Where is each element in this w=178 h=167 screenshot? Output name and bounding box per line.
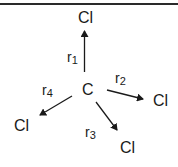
- atom-c-center: C: [82, 82, 94, 98]
- atom-cl-right: Cl: [153, 93, 168, 109]
- vector-r3-arrow: [96, 102, 117, 130]
- vector-label-r2: r2: [115, 71, 126, 86]
- vector-r4-arrow: [40, 96, 72, 115]
- vector-r2-arrow: [107, 90, 143, 99]
- atom-cl-top: Cl: [78, 10, 93, 26]
- vector-label-r4: r4: [42, 83, 53, 98]
- atom-cl-left: Cl: [14, 118, 29, 134]
- atom-cl-bottom: Cl: [120, 140, 135, 156]
- vector-label-r1: r1: [67, 50, 78, 65]
- vector-label-r3: r3: [85, 125, 96, 140]
